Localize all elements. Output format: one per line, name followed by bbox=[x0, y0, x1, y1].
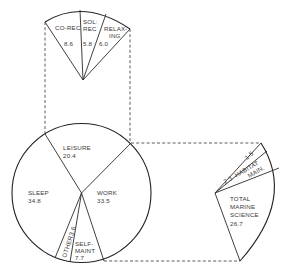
sol-rec-label-2: REC bbox=[83, 25, 97, 32]
self-maint-value: 7.7 bbox=[75, 254, 85, 261]
sol-rec-value: 5.8 bbox=[83, 40, 93, 47]
relaxing-value: 6.0 bbox=[99, 40, 109, 47]
marine-science-value: 26.7 bbox=[230, 220, 243, 227]
habitat-label-group: 2.3 HABITAT MAIN. bbox=[222, 158, 266, 191]
marine-science-label-2: MARINE bbox=[230, 203, 255, 210]
sol-rec-label-1: SOL: bbox=[83, 18, 98, 25]
time-budget-diagram: CO-REC 8.6 SOL: REC 5.8 RELAX- ING 6.0 L… bbox=[0, 0, 297, 274]
relaxing-label-2: ING bbox=[109, 32, 121, 39]
work-value: 33.5 bbox=[97, 197, 110, 204]
sleep-label: SLEEP bbox=[28, 189, 49, 196]
relaxing-label-1: RELAX- bbox=[104, 25, 128, 32]
leisure-breakdown-fan: CO-REC 8.6 SOL: REC 5.8 RELAX- ING 6.0 bbox=[45, 10, 130, 80]
work-label: WORK bbox=[97, 189, 118, 196]
leisure-value: 20.4 bbox=[63, 152, 76, 159]
connector-lines bbox=[45, 22, 261, 261]
other-label: OTHER bbox=[60, 234, 74, 258]
small-segment-label-group: 1.5 bbox=[243, 149, 255, 161]
co-rec-value: 8.6 bbox=[64, 40, 74, 47]
habitat-value: 2.3 bbox=[222, 174, 234, 185]
main-pie: LEISURE 20.4 WORK 33.5 SELF- MAINT 7.7 O… bbox=[12, 124, 151, 263]
leisure-label: LEISURE bbox=[63, 144, 91, 151]
divider-sleep-leisure bbox=[45, 134, 82, 193]
self-maint-label-1: SELF- bbox=[75, 240, 94, 247]
sleep-value: 34.8 bbox=[28, 197, 41, 204]
self-maint-label-2: MAINT bbox=[75, 247, 95, 254]
small-segment-value: 1.5 bbox=[243, 149, 255, 161]
co-rec-label: CO-REC bbox=[55, 24, 81, 31]
marine-science-label-3: SCIENCE bbox=[230, 211, 259, 218]
marine-science-label-1: TOTAL bbox=[230, 195, 251, 202]
work-breakdown-fan: 1.5 2.3 HABITAT MAIN. TOTAL MARINE SCIEN… bbox=[215, 143, 279, 261]
leisure-fan-edge-right bbox=[83, 29, 130, 80]
